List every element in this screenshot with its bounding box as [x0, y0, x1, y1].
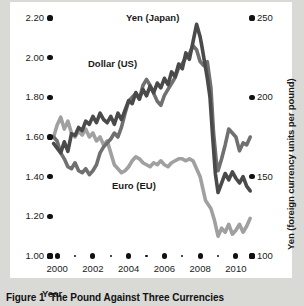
figure-caption: Figure 1 The Pound Against Three Currenc…: [6, 292, 224, 303]
figure-caption-text: The Pound Against Three Currencies: [50, 292, 224, 303]
y-axis-left-tick-label: 1.60: [8, 131, 44, 142]
x-axis-minor-tick-dot: [145, 255, 147, 257]
axis-origin-dot: [47, 253, 52, 258]
y-axis-left-tick-label: 1.40: [8, 171, 44, 182]
x-axis-tick-label: 2004: [112, 263, 146, 274]
y-axis-left-tick-label: 1.20: [8, 210, 44, 221]
y-axis-right-tick-dot: [249, 174, 254, 179]
y-axis-left-tick-label: 2.00: [8, 52, 44, 63]
x-axis-tick-label: 2002: [76, 263, 110, 274]
y-axis-left-tick-dot: [47, 134, 52, 139]
y-axis-left-tick-dot: [47, 174, 52, 179]
x-axis-tick-label: 2000: [40, 263, 74, 274]
y-axis-left-tick-dot: [47, 15, 52, 20]
y-axis-right-tick-label: 200: [257, 91, 273, 102]
y-axis-right-title: Yen (foreign currency units per pound): [286, 70, 297, 250]
figure-container: Euro and US dollar (foreign currency uni…: [0, 0, 304, 306]
y-axis-left-tick-dot: [47, 95, 52, 100]
series-line-euro: [54, 117, 251, 236]
y-axis-left-tick-label: 2.20: [8, 12, 44, 23]
x-axis-tick-label: 2006: [147, 263, 181, 274]
y-axis-right-tick-dot: [249, 15, 254, 20]
y-axis-left-tick-dot: [47, 55, 52, 60]
x-axis-tick-dot: [198, 253, 203, 258]
y-axis-right-tick-label: 100: [257, 250, 273, 261]
y-axis-left-tick-dot: [47, 214, 52, 219]
series-line-dollar: [54, 46, 251, 175]
y-axis-left-tick-label: 1.00: [8, 250, 44, 261]
x-axis-tick-label: 2010: [219, 263, 253, 274]
y-axis-right-tick-label: 150: [257, 171, 273, 182]
y-axis-left-tick-label: 1.80: [8, 91, 44, 102]
series-label-dollar: Dollar (US): [88, 58, 137, 69]
series-label-euro: Euro (EU): [112, 180, 156, 191]
axis-corner-dot: [249, 253, 254, 258]
y-axis-right-tick-dot: [249, 95, 254, 100]
series-label-yen: Yen (Japan): [126, 12, 179, 23]
figure-caption-prefix: Figure 1: [6, 292, 45, 303]
x-axis-tick-dot: [162, 253, 167, 258]
x-axis-tick-dot: [55, 253, 60, 258]
y-axis-right-tick-label: 250: [257, 12, 273, 23]
x-axis-tick-dot: [126, 253, 131, 258]
x-axis-tick-label: 2008: [183, 263, 217, 274]
